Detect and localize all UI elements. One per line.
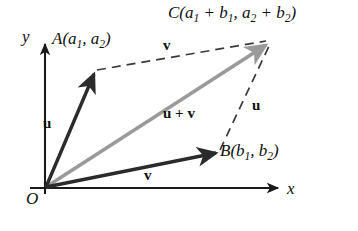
point-c-term1a: a [185,3,194,22]
dashed-side-a-to-c [97,41,266,70]
origin-label: O [26,190,38,207]
x-axis-label: x [287,180,295,197]
point-b-c1-sub: 1 [245,150,251,163]
sum-label-v: v [187,105,195,121]
point-a-c1-sub: 1 [77,38,83,51]
point-a-c2-sub: 2 [99,38,105,51]
point-c-term2b: b [276,3,285,22]
point-b-prefix: B( [220,141,236,160]
point-c-plus2: + [256,3,276,22]
point-c-term1b-sub: 1 [228,12,234,25]
point-a-prefix: A( [52,29,68,48]
point-a-suffix: ) [105,29,111,48]
point-c-term1a-sub: 1 [194,12,200,25]
point-c-term2a-sub: 2 [251,12,257,25]
sum-label-plus: + [171,105,187,121]
vector-label-v-bottom: v [144,168,152,183]
point-b-comma: , [250,141,259,160]
point-c-prefix: C( [168,3,185,22]
point-label-a: A(a1, a2) [52,30,111,47]
vector-label-u-right: u [252,98,260,113]
vector-label-sum: u + v [163,106,195,121]
point-c-term1b: b [219,3,228,22]
point-a-comma: , [82,29,91,48]
point-c-suffix: ) [291,3,297,22]
vector-addition-figure: C(a1 + b1, a2 + b2) A(a1, a2) B(b1, b2) … [0,0,358,231]
point-b-c2-sub: 2 [267,150,273,163]
vector-label-v-top: v [163,38,171,53]
point-label-b: B(b1, b2) [220,142,279,159]
point-c-term2b-sub: 2 [285,12,291,25]
y-axis-label: y [22,28,30,45]
point-b-c1: b [236,141,245,160]
point-a-c1: a [68,29,77,48]
point-b-suffix: ) [273,141,279,160]
vector-label-u-left: u [43,116,51,131]
point-c-plus1: + [199,3,219,22]
point-label-c: C(a1 + b1, a2 + b2) [168,4,296,21]
point-c-comma: , [234,3,243,22]
point-c-term2a: a [242,3,251,22]
